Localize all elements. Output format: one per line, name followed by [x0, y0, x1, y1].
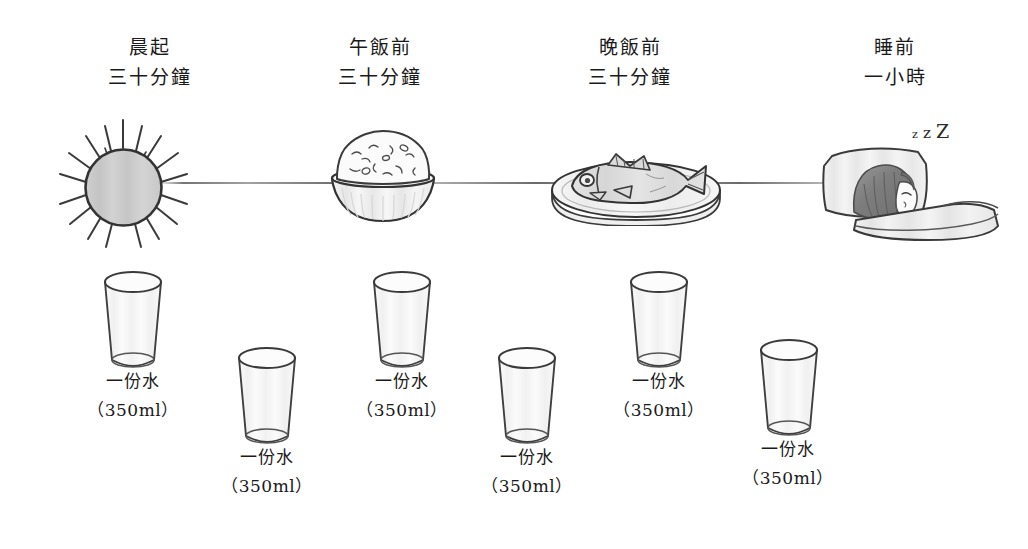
stage-label-line2: 三十分鐘 [50, 62, 250, 92]
stage-label-line1: 晚飯前 [530, 32, 730, 62]
daily-timeline [162, 182, 884, 184]
water-glass-icon [622, 268, 696, 376]
water-glass-icon [230, 344, 304, 452]
zzz-small: z [912, 128, 918, 141]
stage-label-line1: 晨起 [50, 32, 250, 62]
water-label: 一份水 [632, 371, 686, 391]
water-label: 一份水 [761, 439, 815, 459]
sleeping-person-icon [822, 128, 1002, 243]
zzz-large: Z [936, 120, 949, 142]
water-caption-2: 一份水 （350ml） [177, 443, 357, 501]
zzz-mid: z [923, 124, 931, 142]
stage-label-line1: 睡前 [795, 32, 995, 62]
stage-label-line1: 午飯前 [280, 32, 480, 62]
water-glass-icon [96, 268, 170, 376]
water-amount: （350ml） [698, 464, 878, 493]
stage-label-before-sleep: 睡前 一小時 [795, 32, 995, 92]
water-label: 一份水 [375, 371, 429, 391]
water-caption-1: 一份水 （350ml） [43, 367, 223, 425]
stage-label-line2: 三十分鐘 [280, 62, 480, 92]
water-label: 一份水 [500, 447, 554, 467]
fish-plate-icon [546, 150, 726, 226]
water-caption-4: 一份水 （350ml） [437, 443, 617, 501]
water-amount: （350ml） [177, 472, 357, 501]
water-caption-3: 一份水 （350ml） [312, 367, 492, 425]
rice-bowl-icon [320, 126, 446, 226]
water-label: 一份水 [106, 371, 160, 391]
water-label: 一份水 [240, 447, 294, 467]
water-caption-5: 一份水 （350ml） [569, 367, 749, 425]
sleep-zzz-marks: z z Z [912, 120, 949, 142]
stage-label-before-lunch: 午飯前 三十分鐘 [280, 32, 480, 92]
infographic-canvas: 晨起 三十分鐘 午飯前 三十分鐘 晚飯前 三十分鐘 睡前 一小時 [0, 0, 1028, 549]
water-amount: （350ml） [312, 396, 492, 425]
sun-icon [48, 112, 198, 252]
water-amount: （350ml） [43, 396, 223, 425]
water-glass-icon [365, 268, 439, 376]
water-amount: （350ml） [437, 472, 617, 501]
water-glass-icon [752, 336, 826, 444]
stage-label-line2: 三十分鐘 [530, 62, 730, 92]
stage-label-line2: 一小時 [795, 62, 995, 92]
stage-label-morning-wake: 晨起 三十分鐘 [50, 32, 250, 92]
water-caption-6: 一份水 （350ml） [698, 435, 878, 493]
water-glass-icon [490, 344, 564, 452]
stage-label-before-dinner: 晚飯前 三十分鐘 [530, 32, 730, 92]
water-amount: （350ml） [569, 396, 749, 425]
